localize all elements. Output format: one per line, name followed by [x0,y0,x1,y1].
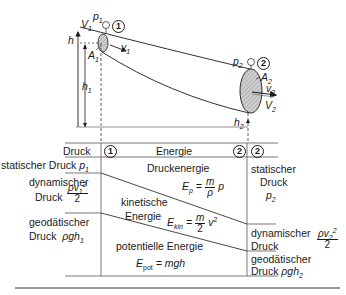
pressure-energy-label: Druckenergie [147,162,209,174]
dynamic-pressure-1-formula: ρv122 [67,183,88,204]
area-1-label: A1 [88,49,99,61]
volume-flow-1-label: V1 [81,18,92,30]
dynamic-pressure-1-label-2: Druck [35,191,62,203]
velocity-2-label: v2 [266,82,275,94]
kinetic-energy-label: kinetische [121,196,168,208]
dynamic-pressure-2-label: dynamischer [251,227,311,239]
static-pressure-1: statischer Druck p1 [1,159,89,171]
gauge-1 [103,22,110,29]
geodetic-pressure-1-label: geodätischer [29,216,89,228]
pressure-energy-formula: Ep = mρ p [182,177,224,198]
p2-label: p2 [233,55,243,67]
potential-energy-formula: Epot = mgh [136,257,185,269]
header-station-1: 1 [104,144,117,158]
gauge-2 [248,59,255,66]
kinetic-energy-label-2: Energie [125,210,161,222]
static-pressure-2-label: statischer [251,163,296,175]
geodetic-pressure-2-label-2: Druck ρgh2 [251,265,303,277]
h1-label: h1 [82,80,92,92]
h-axis-label: h [68,34,74,46]
station-2-marker: 2 [257,56,270,70]
cross-section-1 [98,34,108,52]
pipe [80,22,276,114]
header-station-2-left: 2 [233,144,246,158]
dynamic-pressure-2-formula: ρv222 [317,229,338,250]
kinetic-energy-formula: Ekin = m2 v2 [167,213,217,234]
static-pressure-2-symbol: p2 [266,189,276,201]
geodetic-pressure-2-label: geodätischer [251,253,311,265]
cross-section-2 [240,69,262,113]
header-energy: Energie [156,145,192,157]
dynamic-pressure-2-label-2: Druck [251,240,278,252]
static-pressure-2-label-2: Druck [260,176,287,188]
velocity-1-label: v1 [121,41,130,53]
station-1-marker: 1 [112,19,125,33]
volume-flow-2-label: V2 [265,99,276,111]
h2-label: h2 [234,116,244,128]
header-station-2-right: 2 [251,144,264,158]
potential-energy-label: potentielle Energie [116,240,203,252]
geodetic-pressure-1-label-2: Druck ρgh1 [29,230,84,242]
header-pressure: Druck [63,145,90,157]
p1-label: p1 [93,10,103,22]
